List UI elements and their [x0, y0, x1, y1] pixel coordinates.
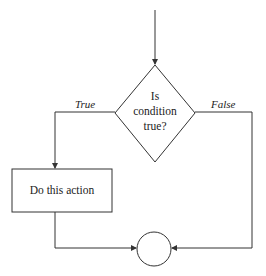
decision-text-line-1: Is [151, 90, 160, 102]
true-branch-connector [55, 112, 115, 168]
action-to-merge-connector [55, 212, 136, 248]
false-branch-connector [172, 112, 252, 248]
action-label: Do this action [30, 184, 95, 196]
false-label: False [210, 98, 236, 110]
merge-connector-circle [137, 232, 171, 266]
true-label: True [75, 98, 95, 110]
flowchart-canvas: Is condition true? True False Do this ac… [0, 0, 266, 276]
decision-text-line-3: true? [144, 120, 167, 132]
decision-text-line-2: condition [133, 105, 177, 117]
